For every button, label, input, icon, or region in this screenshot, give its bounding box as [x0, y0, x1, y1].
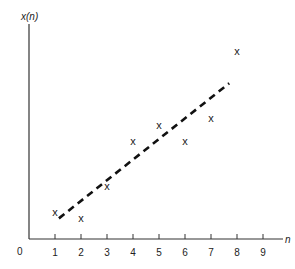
- x-marker-point: x: [234, 45, 240, 57]
- x-tick-label: 3: [104, 247, 110, 258]
- dashed-fit-line: [59, 83, 229, 218]
- x-tick-label: 5: [156, 247, 162, 258]
- x-axis-label: n: [285, 234, 291, 245]
- origin-label: 0: [17, 246, 23, 257]
- x-marker-point: x: [104, 180, 110, 192]
- x-tick-label: 8: [234, 247, 240, 258]
- data-points: xxxxxxxx: [52, 45, 240, 224]
- axes: x(n) n 0: [17, 11, 291, 257]
- x-marker-point: x: [182, 135, 188, 147]
- fit-line: [59, 83, 229, 218]
- x-tick-label: 1: [52, 247, 58, 258]
- x-marker-point: x: [156, 119, 162, 131]
- y-axis-label: x(n): [20, 11, 38, 22]
- x-tick-label: 6: [182, 247, 188, 258]
- x-marker-point: x: [52, 206, 58, 218]
- scatter-chart: x(n) n 0 123456789 xxxxxxxx: [0, 0, 295, 269]
- x-tick-label: 9: [260, 247, 266, 258]
- x-ticks: 123456789: [52, 234, 266, 258]
- x-tick-label: 7: [208, 247, 214, 258]
- x-tick-label: 4: [130, 247, 136, 258]
- x-marker-point: x: [130, 135, 136, 147]
- x-marker-point: x: [78, 212, 84, 224]
- x-tick-label: 2: [78, 247, 84, 258]
- x-marker-point: x: [208, 112, 214, 124]
